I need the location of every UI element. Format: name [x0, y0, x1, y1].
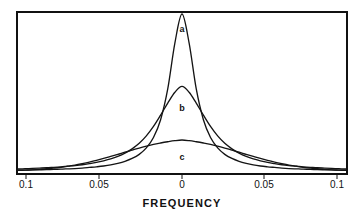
curve-a	[18, 14, 346, 170]
x-axis-title: FREQUENCY	[0, 198, 364, 209]
curve-label-a: a	[179, 25, 184, 34]
curve-label-c: c	[179, 153, 184, 162]
spectral-line-shape-figure: a b c 0.1 0.05 0 0.05 0.1 FREQUENCY	[0, 0, 364, 224]
axis-tick-label-0: 0.1	[19, 180, 33, 190]
plot-frame	[16, 11, 348, 175]
axis-tick-label-3: 0.05	[254, 180, 273, 190]
axis-tick-label-1: 0.05	[89, 180, 108, 190]
axis-tick-label-4: 0.1	[330, 180, 344, 190]
curve-label-b: b	[179, 104, 185, 113]
axis-tick-label-2: 0	[179, 180, 185, 190]
curves-canvas	[18, 13, 346, 173]
